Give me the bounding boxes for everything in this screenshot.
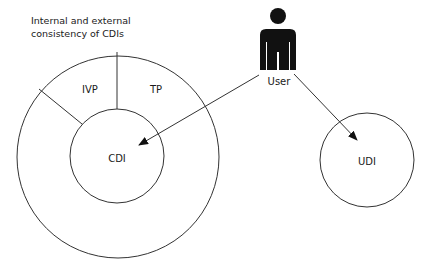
arrow-user-to-udi	[294, 74, 357, 140]
caption-line-1: Internal and external	[31, 15, 131, 26]
user-label: User	[268, 76, 292, 87]
ivp-segment-label: IVP	[82, 84, 98, 95]
user-silhouette-icon	[260, 8, 296, 70]
ring-divider-left	[39, 89, 82, 124]
integrity-diagram: Internal and external consistency of CDI…	[0, 0, 432, 273]
caption-line-2: consistency of CDIs	[31, 28, 124, 39]
tp-segment-label: TP	[149, 84, 162, 95]
cdi-label: CDI	[108, 153, 126, 164]
diagram-caption: Internal and external consistency of CDI…	[31, 15, 131, 39]
udi-label: UDI	[358, 156, 376, 167]
